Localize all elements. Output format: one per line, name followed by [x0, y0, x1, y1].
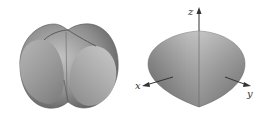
y-axis-label: y	[246, 88, 253, 99]
z-axis-label: z	[187, 6, 194, 17]
x-axis-label: x	[135, 80, 141, 91]
figure-right-solid: z x y	[133, 0, 267, 123]
steinmetz-solid-graphic	[0, 0, 133, 123]
figure-left-solid	[0, 0, 133, 123]
lens-solid-graphic: z x y	[133, 0, 267, 123]
